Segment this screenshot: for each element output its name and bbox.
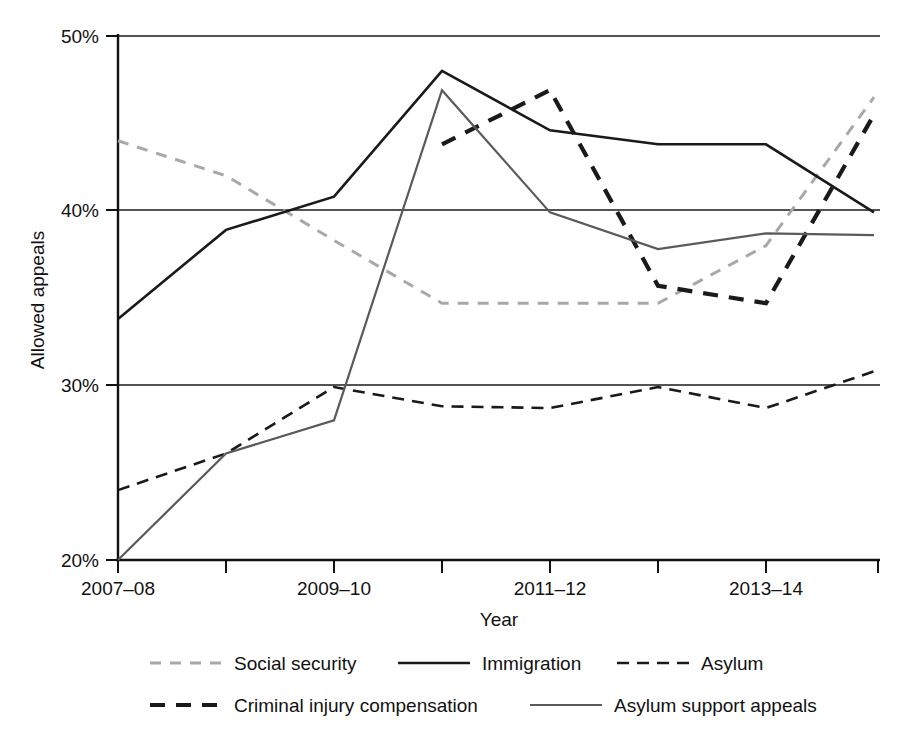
x-tick-label-2007-08: 2007–08 — [81, 578, 155, 599]
y-tick-label-50: 50% — [61, 26, 99, 47]
legend-label-criminal-injury-compensation[interactable]: Criminal injury compensation — [234, 695, 478, 716]
y-tick-label-40: 40% — [61, 200, 99, 221]
legend-label-immigration[interactable]: Immigration — [482, 653, 581, 674]
series-line-asylum — [118, 371, 874, 490]
x-axis-title: Year — [480, 609, 519, 630]
y-tick-label-30: 30% — [61, 375, 99, 396]
y-tick-label-20: 20% — [61, 550, 99, 571]
legend-label-asylum-support-appeals[interactable]: Asylum support appeals — [614, 695, 817, 716]
gridlines — [118, 36, 880, 385]
line-chart: 50% 40% 30% 20% Allowed appeals 2007–08 … — [0, 0, 900, 740]
series-group — [118, 71, 874, 560]
series-line-immigration — [118, 71, 874, 319]
y-axis-title: Allowed appeals — [27, 231, 48, 369]
y-axis: 50% 40% 30% 20% Allowed appeals — [27, 26, 118, 571]
x-tick-label-2013-14: 2013–14 — [729, 578, 803, 599]
x-tick-label-2011-12: 2011–12 — [514, 578, 587, 599]
x-tick-label-2009-10: 2009–10 — [297, 578, 371, 599]
legend: Social security Immigration Asylum Crimi… — [150, 653, 817, 716]
x-axis: 2007–08 2009–10 2011–12 2013–14 Year — [81, 560, 880, 630]
legend-label-social-security[interactable]: Social security — [234, 653, 357, 674]
series-line-asylum-support-appeals — [118, 90, 874, 560]
chart-container: 50% 40% 30% 20% Allowed appeals 2007–08 … — [0, 0, 900, 740]
series-line-criminal-injury-compensation — [442, 90, 874, 303]
series-line-social-security — [118, 97, 874, 303]
legend-label-asylum[interactable]: Asylum — [701, 653, 763, 674]
